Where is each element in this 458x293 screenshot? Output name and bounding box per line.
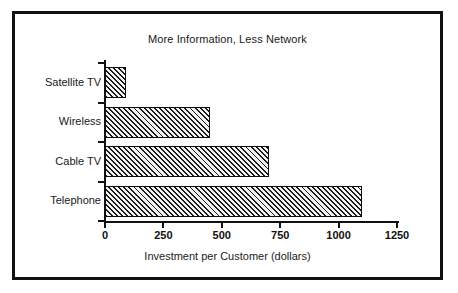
bar-row [105, 182, 397, 222]
bar-row [105, 63, 397, 103]
plot-area [105, 63, 397, 221]
x-axis-title: Investment per Customer (dollars) [15, 250, 440, 262]
bar-row [105, 103, 397, 143]
x-axis-tick [338, 221, 340, 228]
bar-cable-tv [105, 146, 269, 177]
x-axis-tick-label: 1000 [326, 229, 350, 241]
x-axis-tick [221, 221, 223, 228]
chart-title: More Information, Less Network [15, 33, 440, 45]
x-axis-tick-label: 250 [154, 229, 172, 241]
x-axis-tick-label: 0 [102, 229, 108, 241]
bar-telephone [105, 186, 362, 217]
y-axis-label-satellite-tv: Satellite TV [15, 76, 101, 88]
x-axis-tick [104, 221, 106, 228]
chart-screenshot: More Information, Less Network Satellite… [0, 0, 458, 293]
y-axis-label-wireless: Wireless [15, 115, 101, 127]
y-axis-label-telephone: Telephone [15, 194, 101, 206]
y-axis-category-labels: Satellite TVWirelessCable TVTelephone [15, 63, 101, 221]
chart-frame: More Information, Less Network Satellite… [12, 11, 443, 280]
bar-wireless [105, 107, 210, 138]
x-axis-tick-label: 1250 [385, 229, 409, 241]
x-axis-tick [279, 221, 281, 228]
x-axis-tick-label: 750 [271, 229, 289, 241]
x-axis-tick-label: 500 [213, 229, 231, 241]
x-axis-tick [396, 221, 398, 228]
x-axis-tick [162, 221, 164, 228]
bar-satellite-tv [105, 67, 126, 98]
x-axis-line [104, 221, 399, 223]
bar-row [105, 142, 397, 182]
y-axis-label-cable-tv: Cable TV [15, 155, 101, 167]
